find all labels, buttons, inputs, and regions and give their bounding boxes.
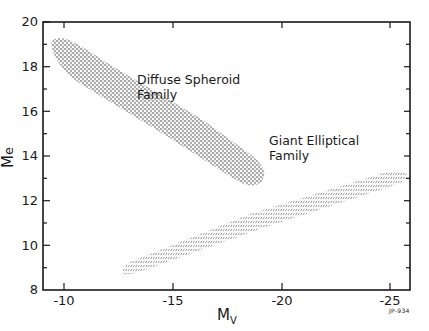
y-tick-label: 16 (14, 104, 38, 119)
y-axis-label: Me (1, 147, 16, 168)
x-axis-label: MV (217, 308, 237, 324)
x-tick-label: -15 (153, 293, 193, 308)
y-axis-label-main: M (0, 155, 17, 168)
x-tick-label: -20 (262, 293, 302, 308)
diffuse-spheroid-annotation: Diffuse Spheroid Family (137, 72, 240, 102)
x-tick-label: -25 (370, 293, 410, 308)
diffuse-spheroid-label-line2: Family (137, 87, 240, 102)
y-tick-label: 10 (14, 238, 38, 253)
diffuse-spheroid-label-line1: Diffuse Spheroid (137, 72, 240, 87)
y-tick-label: 12 (14, 193, 38, 208)
chart-canvas (0, 0, 429, 331)
y-tick-label: 8 (14, 282, 38, 297)
giant-elliptical-band (122, 171, 407, 275)
y-tick-label: 20 (14, 14, 38, 29)
x-axis-label-sub: V (230, 315, 237, 326)
giant-elliptical-annotation: Giant Elliptical Family (269, 133, 359, 163)
y-tick-label: 14 (14, 148, 38, 163)
x-tick-label: -10 (44, 293, 84, 308)
y-tick-label: 18 (14, 59, 38, 74)
giant-elliptical-label-line1: Giant Elliptical (269, 133, 359, 148)
x-axis-label-main: M (217, 306, 230, 324)
figure-code: JP-934 (389, 307, 410, 314)
giant-elliptical-label-line2: Family (269, 148, 359, 163)
y-axis-label-sub: e (1, 147, 16, 155)
diffuse-spheroid-band (51, 38, 264, 185)
